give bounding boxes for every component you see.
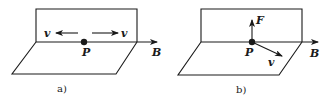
horizontal-plane bbox=[12, 42, 137, 74]
panel-b: F P v B b) bbox=[178, 9, 319, 95]
velocity-left-label: v bbox=[44, 27, 51, 40]
panel-a: v v P B a) bbox=[12, 9, 161, 94]
caption-b: b) bbox=[236, 84, 246, 95]
point-p bbox=[81, 39, 87, 45]
force-f-label: F bbox=[255, 14, 265, 27]
velocity-label: v bbox=[268, 56, 275, 69]
field-b-label: B bbox=[309, 47, 319, 60]
field-b-label: B bbox=[151, 46, 161, 59]
point-p-label: P bbox=[81, 46, 91, 59]
caption-a: a) bbox=[57, 83, 67, 94]
diagram-canvas: v v P B a) F P v B b) bbox=[0, 0, 328, 102]
horizontal-plane bbox=[178, 42, 302, 75]
velocity-right-label: v bbox=[121, 27, 128, 40]
velocity-arrow bbox=[252, 42, 282, 56]
point-p-label: P bbox=[244, 46, 254, 59]
